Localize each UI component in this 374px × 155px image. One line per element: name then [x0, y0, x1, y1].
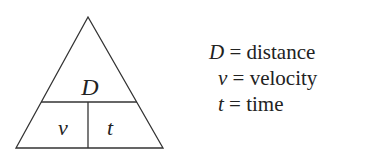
triangle-label-distance: D: [80, 74, 98, 100]
legend-symbol: t: [218, 92, 224, 116]
formula-triangle: D v t: [0, 0, 190, 155]
legend-meaning: time: [246, 92, 283, 116]
legend-meaning: distance: [247, 40, 316, 64]
legend-row-velocity: v = velocity: [209, 65, 317, 91]
legend-symbol: D: [209, 40, 224, 64]
legend-symbol: v: [218, 66, 227, 90]
legend-equals: =: [229, 92, 241, 116]
legend-meaning: velocity: [250, 66, 318, 90]
legend-equals: =: [229, 40, 241, 64]
triangle-label-velocity: v: [58, 115, 68, 140]
legend-equals: =: [233, 66, 245, 90]
legend-row-distance: D = distance: [209, 39, 317, 65]
legend-row-time: t = time: [209, 91, 317, 117]
triangle-label-time: t: [107, 115, 114, 140]
variable-legend: D = distance v = velocity t = time: [209, 39, 317, 117]
